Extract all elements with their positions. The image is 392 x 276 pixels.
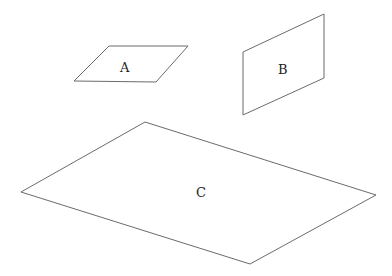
label-c: C (196, 185, 206, 200)
diagram-svg: A B C (0, 0, 392, 276)
parallelogram-a (74, 46, 188, 82)
label-a: A (119, 60, 130, 75)
label-b: B (278, 62, 288, 77)
diagram-canvas: A B C (0, 0, 392, 276)
